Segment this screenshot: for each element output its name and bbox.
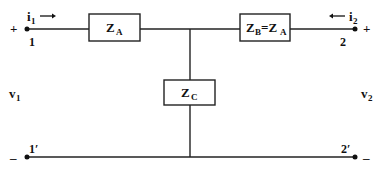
node-1: [25, 27, 30, 32]
svg-text:2: 2: [368, 93, 373, 103]
svg-text:A: A: [280, 27, 287, 37]
svg-text:Z: Z: [106, 20, 115, 35]
svg-text:Z: Z: [246, 20, 255, 35]
svg-text:=Z: =Z: [261, 20, 277, 35]
impedance-za: Z A: [89, 14, 140, 41]
svg-text:1: 1: [31, 16, 36, 26]
impedance-zc: Z C: [164, 80, 215, 105]
svg-text:v: v: [9, 86, 16, 101]
svg-text:C: C: [191, 92, 198, 102]
node-2: [353, 27, 358, 32]
terminal-1p-label: 1′: [29, 142, 38, 156]
svg-text:A: A: [116, 27, 123, 37]
svg-text:1: 1: [16, 93, 21, 103]
terminal-2-label: 2: [340, 35, 346, 49]
v2-minus: –: [362, 150, 370, 165]
svg-text:Z: Z: [181, 85, 190, 100]
v2-plus: +: [363, 21, 370, 36]
t-network-diagram: Z A Z B =Z A Z C 1 2 1′ 2′ + – + – v 1 v…: [0, 0, 378, 172]
impedance-zb: Z B =Z A: [240, 14, 290, 41]
terminal-1-label: 1: [29, 35, 35, 49]
terminal-2p-label: 2′: [341, 142, 350, 156]
svg-text:v: v: [361, 86, 368, 101]
voltage-v1: v 1: [9, 86, 21, 103]
current-i2: i 2: [329, 9, 358, 26]
v1-minus: –: [9, 150, 17, 165]
node-2-prime: [353, 155, 358, 160]
v1-plus: +: [10, 21, 17, 36]
svg-text:2: 2: [353, 16, 358, 26]
voltage-v2: v 2: [361, 86, 373, 103]
current-i1: i 1: [27, 9, 56, 26]
